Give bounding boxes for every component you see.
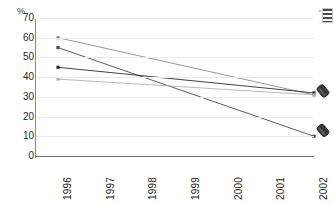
gridline <box>36 57 314 58</box>
y-axis-tick-labels: 706050403020100 <box>0 0 34 205</box>
y-axis-tick-20: 20 <box>8 112 34 122</box>
y-axis-tick-30: 30 <box>8 92 34 102</box>
y-axis-tick-70: 70 <box>8 13 34 23</box>
gridline <box>36 77 314 78</box>
y-axis-tick-10: 10 <box>8 131 34 141</box>
line-series-4 <box>58 79 314 95</box>
x-axis-tick-2002: 2002 <box>318 177 329 200</box>
gridline <box>36 38 314 39</box>
x-axis-tick-1996: 1996 <box>62 177 73 200</box>
y-axis-tick-40: 40 <box>8 72 34 82</box>
line-series-3 <box>58 67 314 93</box>
plot-area <box>36 18 314 156</box>
x-axis-line <box>35 156 314 157</box>
legend-dot-icon <box>319 10 321 12</box>
x-axis-tick-2001: 2001 <box>275 177 286 200</box>
marker-series-3-first <box>56 66 59 69</box>
x-axis-tick-1997: 1997 <box>105 177 116 200</box>
x-axis-tick-1999: 1999 <box>190 177 201 200</box>
x-axis-tick-2000: 2000 <box>233 177 244 200</box>
y-axis-tick-0: 0 <box>8 151 34 161</box>
x-axis-tick-1998: 1998 <box>147 177 158 200</box>
ink-blob-lower <box>316 123 330 137</box>
y-axis-tick-60: 60 <box>8 33 34 43</box>
line-series-2 <box>58 48 314 137</box>
gridline <box>36 136 314 137</box>
gridline <box>36 97 314 98</box>
legend-marker-cropped <box>322 8 333 23</box>
ink-blob-upper <box>316 84 330 98</box>
gridline <box>36 18 314 19</box>
line-chart: % 706050403020100 1996199719981999200020… <box>0 0 334 205</box>
y-axis-tick-50: 50 <box>8 52 34 62</box>
gridline <box>36 117 314 118</box>
y-axis-line <box>35 19 36 158</box>
marker-series-2-first <box>56 46 59 49</box>
line-series-1 <box>58 38 314 95</box>
